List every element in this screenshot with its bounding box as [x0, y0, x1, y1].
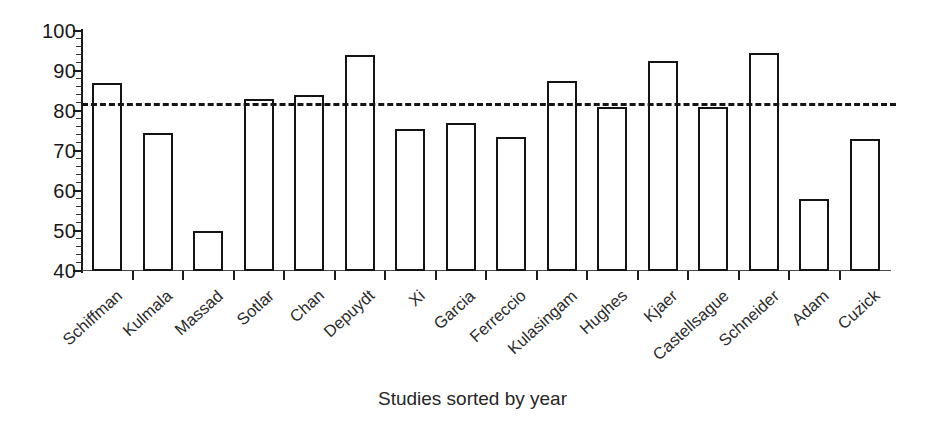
bar-castellsague	[698, 107, 728, 271]
y-axis-minor-tick	[76, 54, 82, 55]
y-axis-minor-tick	[76, 134, 82, 135]
pooled-estimate-line	[82, 103, 896, 106]
y-axis-tick-label: 40	[53, 261, 76, 281]
y-axis-minor-tick	[76, 94, 82, 95]
y-axis-minor-tick	[76, 254, 82, 255]
y-axis-tick-label: 70	[53, 141, 76, 161]
bar-adam	[799, 199, 829, 271]
bar-chart-figure: 405060708090100 SchiffmanKulmalaMassadSo…	[0, 0, 945, 432]
bar-ferreccio	[496, 137, 526, 271]
y-axis-minor-tick	[76, 86, 82, 87]
bar-sotlar	[244, 99, 274, 271]
y-axis-minor-tick	[76, 214, 82, 215]
bar-chan	[294, 95, 324, 271]
y-axis-minor-tick	[76, 62, 82, 63]
y-axis-tick-label: 90	[53, 61, 76, 81]
y-axis-minor-tick	[76, 262, 82, 263]
y-axis-minor-tick	[76, 158, 82, 159]
y-axis-minor-tick	[76, 118, 82, 119]
y-axis-tick-label: 60	[53, 181, 76, 201]
y-axis-minor-tick	[76, 246, 82, 247]
x-axis-label-kjaer: Kjaer	[640, 286, 681, 326]
y-axis-minor-tick	[76, 238, 82, 239]
bar-kulmala	[143, 133, 173, 271]
bar-hughes	[597, 107, 627, 271]
x-axis-label-massad: Massad	[171, 286, 227, 339]
y-axis-tick-label: 80	[53, 101, 76, 121]
bar-kulasingam	[547, 81, 577, 271]
y-axis-minor-tick	[76, 78, 82, 79]
x-axis-label-adam: Adam	[788, 286, 833, 329]
x-axis-category-labels: SchiffmanKulmalaMassadSotlarChanDepuydtX…	[82, 272, 890, 372]
y-axis-minor-tick	[76, 166, 82, 167]
x-axis-label-kulmala: Kulmala	[119, 286, 176, 340]
y-axis-minor-tick	[76, 142, 82, 143]
y-axis-minor-tick	[76, 38, 82, 39]
y-axis-minor-tick	[76, 206, 82, 207]
bar-garcia	[446, 123, 476, 271]
x-axis-label-schiffman: Schiffman	[59, 286, 126, 349]
y-axis-minor-tick	[76, 46, 82, 47]
x-axis-label-depuydt: Depuydt	[320, 286, 378, 341]
plot-area: 405060708090100	[82, 31, 890, 271]
y-axis-tick-label: 50	[53, 221, 76, 241]
y-axis-minor-tick	[76, 198, 82, 199]
y-axis-minor-tick	[76, 126, 82, 127]
y-axis-minor-tick	[76, 174, 82, 175]
bar-depuydt	[345, 55, 375, 271]
bar-schiffman	[92, 83, 122, 271]
y-axis-minor-tick	[76, 222, 82, 223]
bar-xi	[395, 129, 425, 271]
x-axis-title: Studies sorted by year	[0, 388, 945, 410]
bar-cuzick	[850, 139, 880, 271]
bar-schneider	[749, 53, 779, 271]
y-axis-tick-label: 100	[42, 21, 76, 41]
x-axis-label-sotlar: Sotlar	[233, 286, 278, 329]
x-axis-label-chan: Chan	[286, 286, 328, 327]
bar-massad	[193, 231, 223, 271]
y-axis-minor-tick	[76, 182, 82, 183]
x-axis-label-cuzick: Cuzick	[834, 286, 884, 333]
x-axis-label-xi: Xi	[405, 286, 429, 310]
bar-kjaer	[648, 61, 678, 271]
x-axis-label-hughes: Hughes	[576, 286, 631, 338]
